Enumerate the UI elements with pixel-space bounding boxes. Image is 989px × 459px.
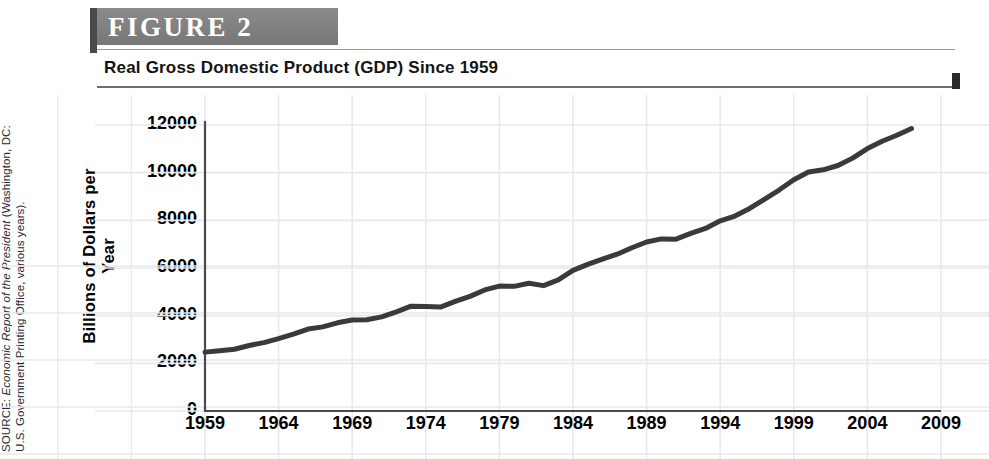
x-axis-tick-label: 1999: [759, 413, 829, 434]
title-rule-bottom: [97, 86, 955, 88]
x-axis-tick-label: 1964: [244, 413, 314, 434]
chart-gridlines: [0, 95, 989, 459]
x-axis-tick-label: 1994: [685, 413, 755, 434]
x-axis-tick-label: 1984: [538, 413, 608, 434]
title-rule-top: [97, 49, 955, 50]
x-axis-tick-label: 1974: [391, 413, 461, 434]
x-axis-tick-label: 1979: [464, 413, 534, 434]
x-axis-tick-label: 2009: [906, 413, 976, 434]
series-line-real-gdp: [205, 129, 912, 353]
x-axis-tick-label: 1959: [170, 413, 240, 434]
x-axis-tick-labels: 1959196419691974197919841989199419992004…: [0, 413, 989, 443]
chart-plot: [0, 95, 989, 459]
chart-container: Billions of Dollars per Year 02000400060…: [0, 95, 989, 459]
x-axis-tick-label: 2004: [832, 413, 902, 434]
figure-title: Real Gross Domestic Product (GDP) Since …: [104, 58, 498, 78]
figure-badge-edge: [90, 8, 97, 53]
figure-badge-label: FIGURE 2: [108, 12, 253, 43]
title-rule-end-tab: [952, 73, 960, 89]
x-axis-tick-label: 1969: [317, 413, 387, 434]
x-axis-tick-label: 1989: [612, 413, 682, 434]
